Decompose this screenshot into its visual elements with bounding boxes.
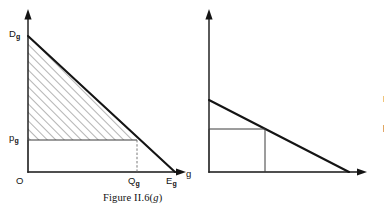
- figure-panel-g: Dg pg Qg Eg O g Figure II.6(g): [0, 0, 192, 218]
- y-axis-arrow-e: [205, 9, 212, 20]
- label-x-axis-variable-g: g: [186, 168, 191, 179]
- figure-panel-e: De pe Qe Ee O e Figure II.6(e): [192, 0, 384, 218]
- label-origin-g: O: [16, 175, 23, 186]
- label-demand-intercept-g: Dg: [9, 29, 20, 39]
- plot-area-g: [0, 0, 192, 218]
- label-price-g: pg: [9, 133, 19, 143]
- figure-caption-g: Figure II.6(g): [103, 192, 162, 203]
- x-axis-arrow-g: [176, 169, 186, 176]
- label-endpoint-g: Eg: [166, 176, 177, 186]
- label-quantity-g: Qg: [128, 176, 140, 186]
- demand-curve-e: [209, 100, 349, 172]
- figure-page: Dg pg Qg Eg O g Figure II.6(g): [0, 0, 384, 218]
- plot-area-e: [192, 0, 384, 218]
- y-axis-arrow-g: [24, 9, 31, 20]
- x-axis-arrow-e: [357, 169, 367, 176]
